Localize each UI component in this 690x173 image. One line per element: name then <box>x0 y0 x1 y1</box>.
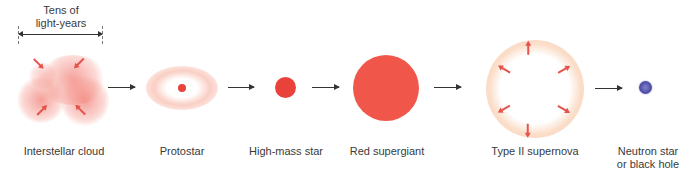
stage-label-protostar: Protostar <box>148 145 216 158</box>
high-mass-star <box>275 77 296 98</box>
arrow-icon <box>108 87 135 88</box>
stage-label-interstellar-cloud: Interstellar cloud <box>10 145 118 158</box>
scale-double-arrow <box>19 34 102 35</box>
stage-label-neutron-star: Neutron star or black hole <box>606 145 690 171</box>
interstellar-cloud-illustration <box>16 55 108 125</box>
stage-label-neutron-star-line1: Neutron star <box>606 145 690 158</box>
protostar-core <box>178 84 186 92</box>
arrow-icon <box>228 87 254 88</box>
scale-label-line1: Tens of <box>18 4 104 17</box>
stage-label-red-supergiant: Red supergiant <box>342 145 432 158</box>
explosion-arrow-icon <box>527 124 529 136</box>
neutron-star <box>639 81 652 94</box>
stage-label-neutron-star-line2: or black hole <box>606 158 690 171</box>
explosion-arrow-icon <box>527 43 529 55</box>
scale-label: Tens of light-years <box>18 4 104 30</box>
arrow-icon <box>312 87 339 88</box>
scale-label-line2: light-years <box>18 17 104 30</box>
stage-label-type-ii-supernova: Type II supernova <box>484 145 586 158</box>
stage-label-high-mass-star: High-mass star <box>244 145 328 158</box>
arrow-icon <box>595 88 622 89</box>
arrow-icon <box>434 87 461 88</box>
supernova-illustration <box>486 40 584 138</box>
red-supergiant <box>353 55 419 121</box>
